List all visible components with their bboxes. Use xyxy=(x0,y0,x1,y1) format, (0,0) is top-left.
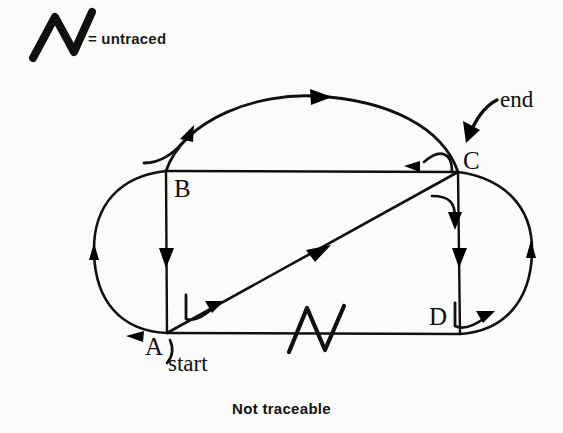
edge-B-to-C-outer-arc xyxy=(166,96,458,172)
edge-D-to-C-outer-arc xyxy=(458,172,532,334)
arrowhead-bottom-left-arc xyxy=(126,331,144,342)
arrowhead-top-side-left xyxy=(404,161,420,172)
tick-B-to-top-arc xyxy=(144,136,188,163)
hook-C-to-top-side xyxy=(424,154,452,172)
arrowhead-right-arc-up xyxy=(526,240,536,258)
zigzag-untraced-mark-on-edge xyxy=(289,306,344,352)
edge-A-to-B-outer-arc xyxy=(94,171,167,333)
legend-label: = untraced xyxy=(88,30,166,47)
arrowhead-C-onto-right-side xyxy=(448,212,462,230)
arrowhead-end-pointer xyxy=(463,121,480,143)
vertex-label-B: B xyxy=(174,176,191,201)
vertex-label-C: C xyxy=(463,148,480,173)
pointer-arrow-to-C xyxy=(472,100,497,129)
end-annotation-label: end xyxy=(500,88,533,111)
vertex-label-A: A xyxy=(145,334,163,359)
edge-B-C-top xyxy=(166,171,458,172)
edge-A-D-bottom-untraced xyxy=(167,333,460,334)
arrowhead-top-arc-right xyxy=(310,89,332,105)
start-annotation-label: start xyxy=(168,352,208,375)
arrowhead-left-side-down xyxy=(159,248,174,268)
zigzag-untraced-mark-legend xyxy=(33,12,92,58)
vertex-label-D: D xyxy=(429,304,447,329)
arrowhead-diagonal-up-right xyxy=(306,245,331,262)
arrowhead-B-onto-top-arc xyxy=(180,125,194,142)
arrowhead-right-side-down xyxy=(452,248,467,268)
graph-diagram xyxy=(0,0,563,433)
arrowhead-left-arc-up xyxy=(89,243,99,260)
figure-caption: Not traceable xyxy=(0,400,563,417)
